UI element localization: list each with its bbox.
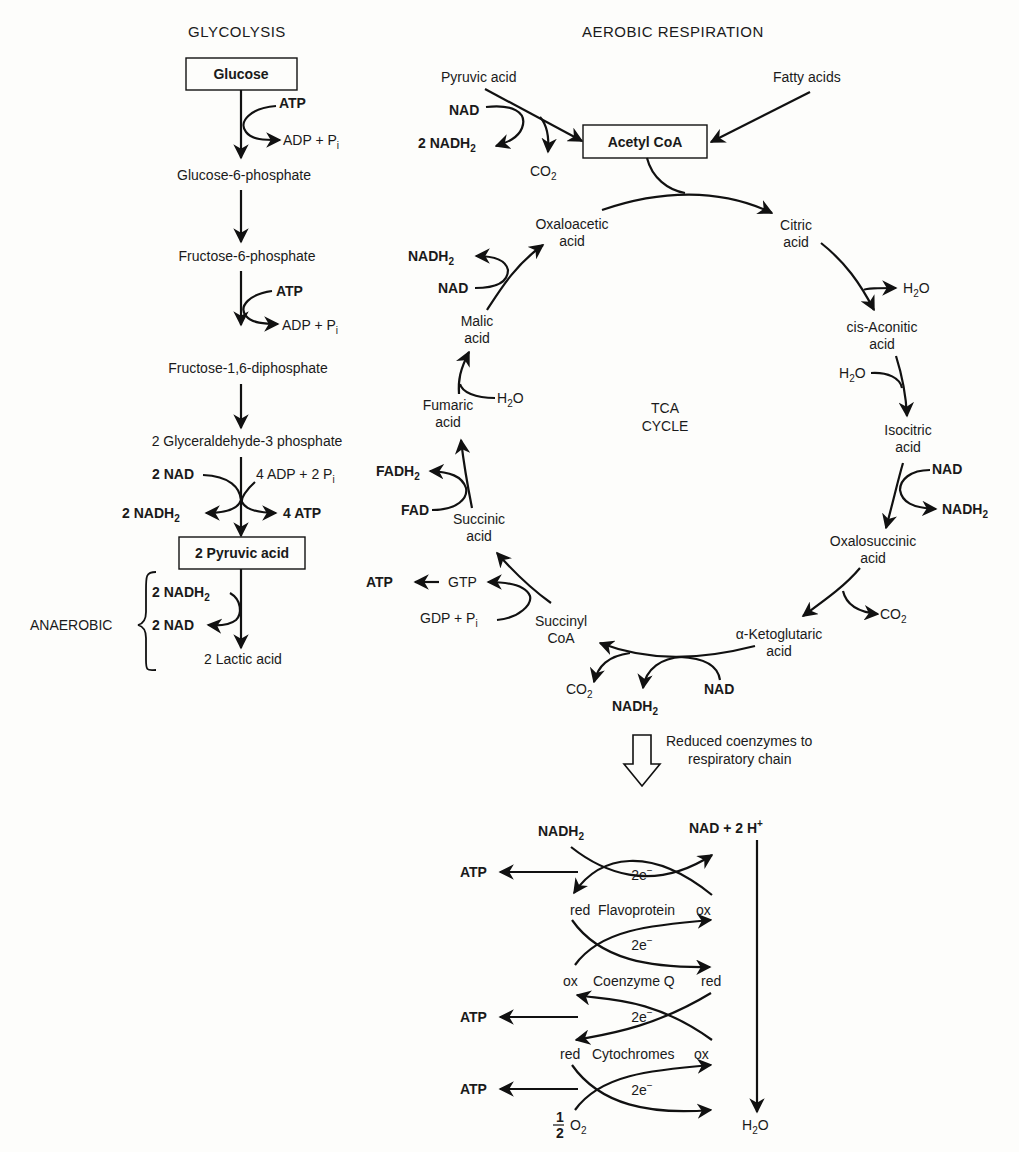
flavoprotein-label: Flavoprotein [598, 902, 675, 918]
atp-generation-arrow [242, 482, 276, 513]
entry-nad-arrow [486, 106, 523, 146]
chain-nadh2-label: NADH2 [538, 823, 584, 842]
pyruvic-acid-input: Pyruvic acid [441, 69, 516, 85]
fructose-1-6-diphosphate-label: Fructose-1,6-diphosphate [168, 360, 328, 376]
chain-atp-label-2: ATP [460, 1009, 487, 1025]
oxs-co2-label: CO2 [880, 606, 907, 625]
aerobic-respiration-heading: AEROBIC RESPIRATION [582, 23, 764, 40]
svg-text:O2: O2 [570, 1117, 587, 1136]
coenzyme-q-label: Coenzyme Q [593, 973, 675, 989]
glucose-label: Glucose [213, 66, 268, 82]
flavoprotein-left-state: red [570, 902, 590, 918]
malate-nad-arrow [475, 256, 508, 288]
nad-reduction-arrow [203, 475, 241, 513]
lactic-acid-label: 2 Lactic acid [204, 651, 282, 667]
respiratory-chain-caption-line2: respiratory chain [688, 751, 792, 767]
atp-yield-label: 4 ATP [283, 505, 321, 521]
glycolysis-section: GLYCOLYSIS Glucose ATP ADP + Pi Glucose-… [30, 23, 343, 670]
kg-nad-label: NAD [704, 681, 734, 697]
anaerobic-nad-label: 2 NAD [152, 617, 194, 633]
water-addition-arrow [460, 384, 495, 398]
fumaric-acid-label: Fumaricacid [423, 397, 474, 430]
nad-2h-label: NAD + 2 H+ [689, 818, 763, 836]
flavoprotein-right-state: ox [696, 902, 711, 918]
svg-text:2: 2 [556, 1125, 564, 1141]
water-uptake-arrow [871, 373, 902, 388]
tca-cycle: TCA CYCLE Oxaloaceticacid Citricacid H2O… [366, 216, 988, 717]
oxalosuccinic-acid-label: Oxalosuccinicacid [830, 533, 916, 566]
respiratory-chain-caption-line1: Reduced coenzymes to [666, 733, 813, 749]
coenzyme-q-left-state: ox [563, 973, 578, 989]
fatty-acids-input: Fatty acids [773, 69, 841, 85]
cytochromes-label: Cytochromes [592, 1046, 674, 1062]
svg-text:1: 1 [556, 1109, 564, 1125]
arrow-citrate-to-cisaconitate [821, 243, 874, 310]
iso-nad-arrow [900, 470, 936, 509]
mal-nadh2-label: NADH2 [408, 248, 454, 267]
nad-label: 2 NAD [152, 466, 194, 482]
tca-cycle-label-line2: CYCLE [642, 418, 689, 434]
succinic-acid-label: Succinicacid [453, 511, 505, 544]
glyceraldehyde-3-phosphate-label: 2 Glyceraldehyde-3 phosphate [152, 433, 343, 449]
atp-label-2: ATP [276, 283, 303, 299]
arrow-fatty-acids-to-acetylcoa [711, 92, 810, 142]
fructose-6-phosphate-label: Fructose-6-phosphate [179, 248, 316, 264]
kg-nadh2-label: NADH2 [612, 698, 658, 717]
alpha-ketoglutaric-acid-label: α-Ketoglutaricacid [736, 626, 823, 659]
h2o-in-label: H2O [839, 365, 866, 384]
atp-consumption-arrow-2 [244, 291, 278, 324]
kg-co2-label: CO2 [566, 681, 593, 700]
chain-h2o-label: H2O [742, 1117, 769, 1136]
gtp-label: GTP [448, 574, 477, 590]
mal-nad-label: NAD [438, 280, 468, 296]
adp-label-2: ADP + Pi [282, 317, 338, 336]
cis-aconitic-acid-label: cis-Aconiticacid [847, 319, 918, 352]
glycolysis-heading: GLYCOLYSIS [188, 23, 286, 40]
glucose-6-phosphate-label: Glucose-6-phosphate [177, 167, 311, 183]
kg-nad-in-arrow [680, 657, 720, 680]
oxaloacetic-acid-label: Oxaloaceticacid [535, 216, 608, 249]
electron-pair-label-2: 2e− [631, 935, 653, 953]
fum-h2o-label: H2O [497, 390, 524, 409]
acetyl-coa-label: Acetyl CoA [608, 134, 683, 150]
cytochromes-right-state: ox [694, 1046, 709, 1062]
water-release-arrow [864, 288, 896, 290]
arrow-malate-to-oxaloacetate [487, 245, 543, 310]
acetyl-coa-entry: AEROBIC RESPIRATION Pyruvic acid Fatty a… [418, 23, 841, 213]
decarboxylation-arrow [843, 591, 878, 614]
iso-nad-label: NAD [932, 461, 962, 477]
gdp-pi-label: GDP + Pi [420, 610, 478, 629]
pyruvic-acid-label: 2 Pyruvic acid [195, 545, 289, 561]
arrow-oxaloacetate-to-citrate [602, 195, 772, 213]
anaerobic-nadh2-label: 2 NADH2 [152, 584, 210, 603]
respiratory-chain: Reduced coenzymes to respiratory chain N… [460, 733, 813, 1141]
fad-label: FAD [401, 502, 429, 518]
acetyl-coa-feed-arrow [647, 158, 685, 193]
kg-co2-out-arrow [594, 653, 630, 682]
adp-label-1: ADP + Pi [283, 132, 339, 151]
anaerobic-nad-arrow [208, 593, 240, 625]
tca-atp-label: ATP [366, 574, 393, 590]
adp-pi-label: 4 ADP + 2 Pi [256, 466, 335, 485]
coenzyme-q-right-state: red [701, 973, 721, 989]
electron-pair-label-4: 2e− [631, 1080, 653, 1098]
chain-atp-label-1: ATP [460, 864, 487, 880]
h2o-out-label: H2O [903, 280, 930, 299]
arrow-succinate-to-fumarate [461, 440, 472, 508]
anaerobic-label: ANAEROBIC [30, 617, 112, 633]
entry-nadh2-label: 2 NADH2 [418, 135, 476, 154]
nadh2-label: 2 NADH2 [122, 505, 180, 524]
arrow-pyruvate-to-acetylcoa [485, 89, 582, 141]
kg-nadh2-out-arrow [643, 657, 682, 688]
fad-reduction-arrow [430, 471, 466, 510]
atp-label-1: ATP [279, 95, 306, 111]
arrow-isocitrate-to-oxalosuccinate [886, 463, 903, 528]
substrate-phosphorylation-arrow [488, 582, 530, 620]
citric-acid-label: Citricacid [780, 217, 812, 250]
half-oxygen-label: 1 2 O2 [553, 1109, 587, 1141]
cytochromes-left-state: red [560, 1046, 580, 1062]
arrow-fumarate-to-malate [459, 352, 469, 394]
succinyl-coa-label: SuccinylCoA [535, 613, 587, 646]
tca-cycle-label-line1: TCA [651, 400, 680, 416]
metabolic-pathway-diagram: GLYCOLYSIS Glucose ATP ADP + Pi Glucose-… [0, 0, 1019, 1152]
